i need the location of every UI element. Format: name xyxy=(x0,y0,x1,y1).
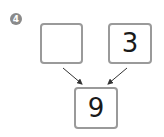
arrow-right-to-whole-icon xyxy=(108,68,127,84)
part-right-box: 3 xyxy=(108,23,152,64)
arrow-left-to-whole-icon xyxy=(63,68,82,84)
part-left-input-box[interactable] xyxy=(40,23,83,64)
problem-number-badge: 4 xyxy=(10,13,22,25)
whole-box: 9 xyxy=(74,87,118,129)
